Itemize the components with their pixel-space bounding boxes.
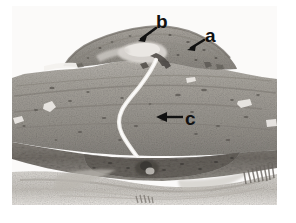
histology-figure: b a c <box>0 0 296 223</box>
micrograph-image <box>0 0 296 223</box>
annotation-label-c: c <box>185 109 196 128</box>
annotation-label-b: b <box>156 12 168 31</box>
annotation-label-a: a <box>205 26 216 45</box>
